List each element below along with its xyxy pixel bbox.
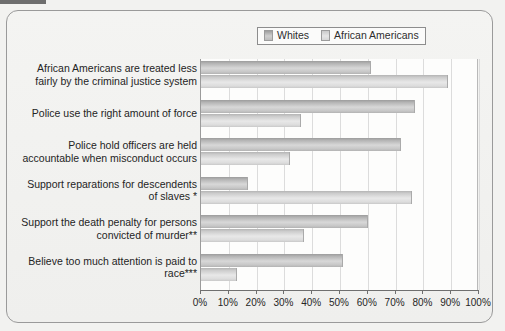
bar-african-americans — [201, 114, 301, 127]
category-label-line: convicted of murder** — [17, 229, 197, 242]
x-axis-tick — [450, 290, 451, 294]
legend-label-whites: Whites — [277, 30, 309, 41]
category-label-line: Police use the right amount of force — [17, 107, 197, 120]
category-label-line: Support the death penalty for persons — [17, 216, 197, 229]
x-axis-tick — [339, 290, 340, 294]
x-axis-tick-label: 90% — [440, 297, 460, 308]
gridline — [423, 59, 424, 290]
x-axis-tick — [422, 290, 423, 294]
category-label-line: fairly by the criminal justice system — [17, 75, 197, 88]
x-axis-tick — [478, 290, 479, 294]
page-top-strip-artifact — [0, 0, 46, 4]
x-axis-tick-label: 0% — [193, 297, 207, 308]
x-axis-tick-labels: 0%10%20%30%40%50%60%70%80%90%100% — [200, 297, 478, 311]
bar-african-americans — [201, 268, 237, 281]
plot-right-border — [477, 59, 478, 290]
bar-african-americans — [201, 152, 290, 165]
x-axis-tick-label: 60% — [357, 297, 377, 308]
bar-whites — [201, 100, 415, 113]
x-axis-tick — [367, 290, 368, 294]
x-axis-tick-label: 30% — [273, 297, 293, 308]
category-label-line: accountable when misconduct occurs — [17, 152, 197, 165]
x-axis-tick-label: 10% — [218, 297, 238, 308]
bar-whites — [201, 61, 371, 74]
gridline — [479, 59, 480, 290]
bar-whites — [201, 177, 248, 190]
category-label-line: race*** — [17, 267, 197, 280]
gridline — [368, 59, 369, 290]
category-label-line: Police hold officers are held — [17, 139, 197, 152]
plot-wrapper: 0%10%20%30%40%50%60%70%80%90%100% — [200, 59, 478, 307]
bar-african-americans — [201, 191, 412, 204]
legend-swatch-icon — [321, 30, 330, 41]
legend-item-african-americans: African Americans — [321, 30, 419, 41]
category-label: Support the death penalty for personscon… — [17, 216, 197, 241]
bar-whites — [201, 138, 401, 151]
category-label: Police hold officers are heldaccountable… — [17, 139, 197, 164]
legend-item-whites: Whites — [264, 30, 309, 41]
legend-swatch-icon — [264, 30, 273, 41]
chart-legend: Whites African Americans — [257, 27, 426, 45]
bar-african-americans — [201, 75, 448, 88]
x-axis-tick-label: 70% — [385, 297, 405, 308]
x-axis-tick — [256, 290, 257, 294]
category-label: African Americans are treated lessfairly… — [17, 62, 197, 87]
legend-label-african-americans: African Americans — [334, 30, 419, 41]
bar-whites — [201, 215, 368, 228]
bar-whites — [201, 254, 343, 267]
x-axis-tick — [283, 290, 284, 294]
x-axis-tick-label: 20% — [246, 297, 266, 308]
category-label: Support reparations for descendentsof sl… — [17, 178, 197, 203]
gridline — [451, 59, 452, 290]
chart-frame: Whites African Americans African America… — [6, 10, 493, 323]
x-axis-tick — [200, 290, 201, 294]
category-label-line: Support reparations for descendents — [17, 178, 197, 191]
x-axis-tick — [228, 290, 229, 294]
x-axis-tick — [311, 290, 312, 294]
category-label: Police use the right amount of force — [17, 107, 197, 120]
category-label-line: Believe too much attention is paid to — [17, 255, 197, 268]
bar-african-americans — [201, 229, 304, 242]
x-axis-tick-label: 80% — [412, 297, 432, 308]
category-label-line: of slaves * — [17, 190, 197, 203]
x-axis-tick-label: 40% — [301, 297, 321, 308]
x-axis-tick-label: 100% — [465, 297, 491, 308]
category-axis-labels: African Americans are treated lessfairly… — [17, 59, 197, 290]
category-label-line: African Americans are treated less — [17, 62, 197, 75]
x-axis-tick-label: 50% — [329, 297, 349, 308]
gridline — [396, 59, 397, 290]
x-axis-tick — [395, 290, 396, 294]
category-label: Believe too much attention is paid torac… — [17, 255, 197, 280]
plot-area — [200, 59, 478, 290]
